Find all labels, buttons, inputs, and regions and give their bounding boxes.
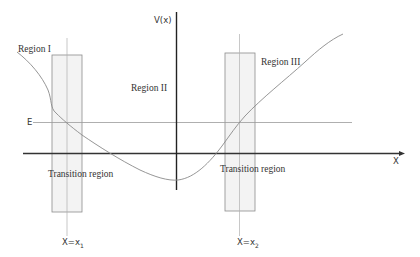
turning-point-x1-label: X=x1 xyxy=(62,237,84,249)
turning-point-x2-subscript: 2 xyxy=(255,242,259,249)
region-2-label: Region II xyxy=(131,83,167,93)
region-3-label: Region III xyxy=(261,57,300,67)
x-axis-label: X xyxy=(393,156,399,166)
transition-region-right-label: Transition region xyxy=(220,164,286,174)
transition-region-right-box xyxy=(225,53,255,211)
potential-diagram: Region I Region II Region III V(x) X E T… xyxy=(0,0,420,257)
turning-point-x1-subscript: 1 xyxy=(80,242,84,249)
x-axis-arrowhead xyxy=(399,151,405,156)
turning-point-x2-text: X=x xyxy=(237,237,255,247)
turning-point-x1-text: X=x xyxy=(62,237,80,247)
energy-label: E xyxy=(27,117,32,127)
turning-point-x2-label: X=x2 xyxy=(237,237,259,249)
y-axis-label: V(x) xyxy=(154,15,171,25)
transition-region-left-label: Transition region xyxy=(48,169,114,179)
region-1-label: Region I xyxy=(18,44,51,54)
